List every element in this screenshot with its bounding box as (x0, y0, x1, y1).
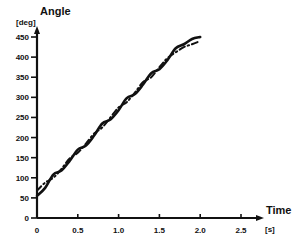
x-tick-label: 0.5 (72, 226, 84, 235)
dashdot-series-line (37, 41, 200, 191)
x-tick-label: 2.5 (235, 226, 247, 235)
y-tick-label: 150 (16, 154, 30, 163)
y-tick-label: 50 (20, 194, 29, 203)
x-axis-unit: [s] (265, 225, 275, 234)
y-axis-unit: [deg] (16, 18, 36, 27)
y-tick-label: 250 (16, 113, 30, 122)
y-axis-title: Angle (40, 5, 71, 17)
axes (34, 26, 264, 221)
y-tick-label: 350 (16, 73, 30, 82)
x-tick-label: 1.0 (113, 226, 125, 235)
y-tick-label: 0 (25, 214, 30, 223)
x-tick-label: 2.0 (195, 226, 207, 235)
solid-series-line (37, 37, 200, 196)
y-tick-label: 450 (16, 33, 30, 42)
x-tick-label: 1.5 (154, 226, 166, 235)
y-tick-label: 400 (16, 53, 30, 62)
y-tick-label: 200 (16, 134, 30, 143)
x-axis-arrow-icon (256, 215, 264, 221)
x-axis-title: Time (266, 204, 291, 216)
y-tick-label: 100 (16, 174, 30, 183)
y-ticks: 050100150200250300350400450 (16, 33, 37, 223)
y-axis-arrow-icon (34, 26, 40, 34)
angle-time-chart: Angle [deg] Time [s] 0501001502002503003… (0, 0, 305, 244)
series-group (37, 37, 200, 196)
y-tick-label: 300 (16, 93, 30, 102)
x-tick-label: 0 (35, 226, 40, 235)
